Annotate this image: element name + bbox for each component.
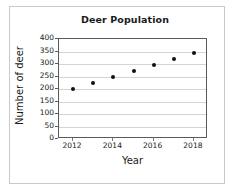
plot-area	[58, 38, 207, 138]
data-point	[71, 87, 75, 91]
gridline	[59, 77, 206, 78]
x-axis-tick-label: 2018	[178, 141, 208, 150]
y-axis-tick-label: 0	[24, 134, 54, 142]
chart-title: Deer Population	[40, 14, 210, 25]
chart-screenshot: Deer Population Number of deer 050100150…	[0, 0, 235, 192]
y-axis-tick-label: 300	[24, 59, 54, 67]
y-axis-tick-label: 100	[24, 109, 54, 117]
gridline	[59, 89, 206, 90]
y-axis-tick-label: 150	[24, 97, 54, 105]
x-axis-tick-label: 2012	[57, 141, 87, 150]
gridline	[59, 102, 206, 103]
y-axis-tick-label: 50	[24, 122, 54, 130]
data-point	[111, 75, 115, 79]
y-axis-tick-label: 200	[24, 84, 54, 92]
x-axis-title: Year	[58, 155, 207, 166]
y-axis-tick-label: 400	[24, 34, 54, 42]
y-axis-title: Number of deer	[14, 31, 25, 141]
gridline	[59, 52, 206, 53]
data-point	[192, 51, 196, 55]
data-point	[91, 81, 95, 85]
data-point	[172, 57, 176, 61]
gridline	[59, 114, 206, 115]
data-point	[152, 63, 156, 67]
gridline	[59, 127, 206, 128]
x-axis-tick-mark	[112, 138, 113, 141]
gridline	[59, 64, 206, 65]
x-axis-tick-mark	[72, 138, 73, 141]
x-axis-tick-label: 2016	[138, 141, 168, 150]
y-axis-tick-label: 250	[24, 72, 54, 80]
x-axis-tick-mark	[153, 138, 154, 141]
x-axis-tick-label: 2014	[97, 141, 127, 150]
x-axis-tick-mark	[193, 138, 194, 141]
data-point	[132, 69, 136, 73]
y-axis-tick-mark	[55, 138, 58, 139]
y-axis-tick-label: 350	[24, 47, 54, 55]
